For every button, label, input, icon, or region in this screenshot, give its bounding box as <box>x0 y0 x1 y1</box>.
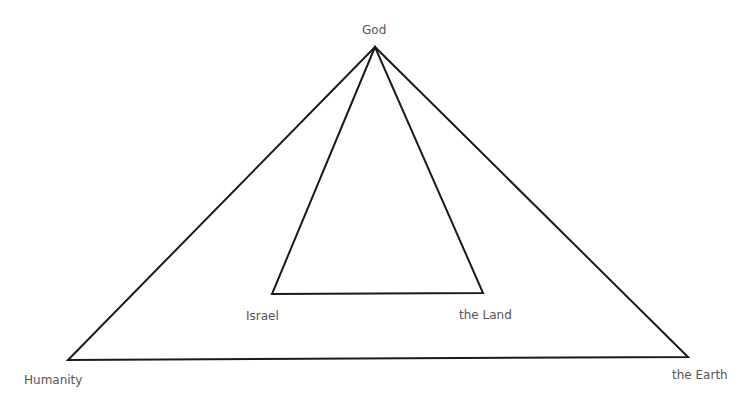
diagram-canvas: God Humanity the Earth Israel the Land <box>0 0 756 405</box>
inner-triangle <box>272 47 483 294</box>
node-label-humanity: Humanity <box>24 374 82 386</box>
node-label-the-land: the Land <box>459 309 512 321</box>
triangle-diagram <box>0 0 756 405</box>
node-label-israel: Israel <box>246 310 279 322</box>
node-label-god: God <box>362 24 386 36</box>
outer-triangle <box>68 47 688 360</box>
node-label-the-earth: the Earth <box>672 369 728 381</box>
